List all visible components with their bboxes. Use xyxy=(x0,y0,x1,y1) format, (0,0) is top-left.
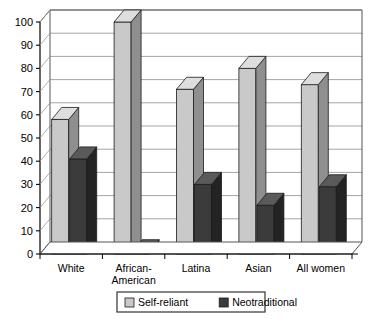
y-axis-tick-label: 100 xyxy=(15,16,33,28)
y-axis-tick-label: 80 xyxy=(21,62,33,74)
legend-swatch xyxy=(219,298,228,307)
y-axis-tick-label: 60 xyxy=(21,109,33,121)
legend-label: Neotraditional xyxy=(232,296,297,308)
y-axis-tick-label: 40 xyxy=(21,155,33,167)
bar xyxy=(114,10,141,254)
x-axis-category-label: All women xyxy=(297,262,346,274)
category-labels: WhiteAfrican-AmericanLatinaAsianAll wome… xyxy=(58,262,345,286)
x-axis-ticks xyxy=(40,254,352,259)
x-axis-category-label: African- xyxy=(116,262,153,274)
chart-canvas: 0102030405060708090100 WhiteAfrican-Amer… xyxy=(0,0,372,319)
x-axis-category-label: White xyxy=(58,262,85,274)
y-axis-tick-label: 0 xyxy=(27,248,33,260)
x-axis-category-label: American xyxy=(111,274,156,286)
y-axis-tick-label: 50 xyxy=(21,132,33,144)
y-axis-tick-label: 20 xyxy=(21,202,33,214)
y-axis-tick-label: 30 xyxy=(21,178,33,190)
x-axis-category-label: Latina xyxy=(182,262,211,274)
legend-swatch xyxy=(125,298,134,307)
legend: Self-reliantNeotraditional xyxy=(117,292,297,312)
axis-floor xyxy=(40,242,362,254)
y-axis-tick-label: 90 xyxy=(21,39,33,51)
x-axis-category-label: Asian xyxy=(245,262,271,274)
bar-chart: 0102030405060708090100 WhiteAfrican-Amer… xyxy=(0,0,372,319)
y-axis-tick-label: 10 xyxy=(21,225,33,237)
legend-label: Self-reliant xyxy=(138,296,188,308)
y-axis-tick-label: 70 xyxy=(21,86,33,98)
bar xyxy=(70,147,97,254)
